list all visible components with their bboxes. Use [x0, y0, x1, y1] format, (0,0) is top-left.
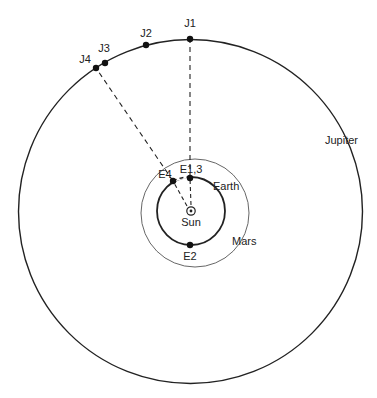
jupiter-position-dot-j1	[187, 36, 193, 42]
sight-line-e4-j4	[96, 68, 173, 181]
label-e2: E2	[183, 250, 196, 262]
jupiter-position-dot-j4	[93, 65, 99, 71]
label-jupiter: Jupiter	[325, 134, 358, 146]
label-mars: Mars	[232, 235, 257, 247]
jupiter-position-dot-j2	[143, 42, 149, 48]
label-sun: Sun	[181, 216, 201, 228]
sight-line-sun-e13	[190, 178, 191, 205]
sight-line-sun-e4	[173, 181, 187, 206]
label-earth: Earth	[213, 180, 239, 192]
label-e4: E4	[158, 168, 171, 180]
planetary-orbit-diagram: J1 J2 J3 J4 E1,3 E2 E4 Sun Earth Mars Ju…	[0, 0, 377, 398]
earth-position-dot-e2	[187, 242, 193, 248]
label-j2: J2	[140, 27, 152, 39]
label-e13: E1,3	[180, 163, 203, 175]
sun-icon	[187, 207, 195, 215]
label-j4: J4	[79, 53, 91, 65]
label-j1: J1	[184, 17, 196, 29]
label-j3: J3	[98, 42, 110, 54]
earth-position-dot-e13	[187, 175, 193, 181]
jupiter-position-dot-j3	[102, 60, 108, 66]
